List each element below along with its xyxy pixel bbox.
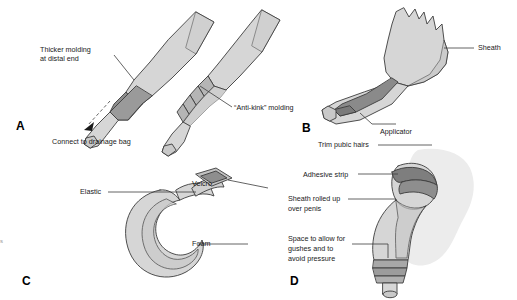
label-trim-pubic-hairs: Trim pubic hairs — [318, 140, 369, 149]
panel-letter-c: C — [22, 274, 31, 288]
page-edge-artifact: s — [0, 238, 3, 245]
panel-letter-a: A — [16, 119, 25, 133]
panel-letter-b: B — [302, 121, 311, 135]
label-space-to-allow-line3: avoid pressure — [288, 254, 335, 263]
label-sheath: Sheath — [478, 43, 501, 52]
label-sheath-rolled-up-line2: over penis — [288, 204, 322, 213]
label-foam: Foam — [192, 239, 210, 248]
label-thicker-molding-line2: at distal end — [40, 54, 79, 63]
label-thicker-molding-line1: Thicker molding — [40, 45, 91, 54]
label-space-to-allow-line2: gushes and to — [288, 244, 333, 253]
label-connect-drainage-bag: Connect to drainage bag — [52, 137, 131, 146]
label-elastic: Elastic — [80, 187, 102, 196]
label-velcro: Velcro — [192, 179, 212, 188]
panel-letter-d: D — [290, 274, 299, 288]
label-applicator: Applicator — [380, 127, 413, 136]
label-adhesive-strip: Adhesive strip — [303, 170, 348, 179]
label-sheath-rolled-up-line1: Sheath rolled up — [288, 194, 340, 203]
label-anti-kink-molding: “Anti-kink” molding — [234, 103, 294, 112]
label-space-to-allow-line1: Space to allow for — [288, 234, 346, 243]
figure-canvas: .ol{stroke:#3c3c3c;stroke-width:0.9;stro… — [0, 0, 517, 300]
